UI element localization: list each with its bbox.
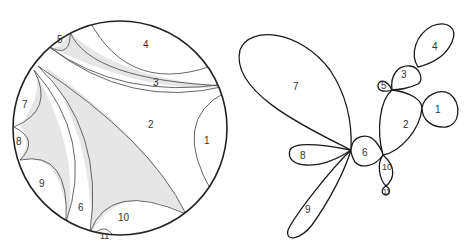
arc-region-1 [194, 92, 226, 192]
disk-label-11: 11 [100, 231, 109, 241]
lobe-7 [239, 35, 351, 150]
lobe-label-7: 7 [293, 81, 299, 92]
diagram-canvas: 1 2 3 4 5 6 7 8 9 10 11 1 2 3 4 5 6 7 8 [0, 0, 471, 248]
lobe-label-4: 4 [432, 41, 438, 52]
disk-label-6: 6 [78, 202, 84, 213]
lobe-label-8: 8 [300, 150, 306, 161]
lobe-label-3: 3 [401, 69, 407, 80]
lobe-label-10: 10 [382, 162, 392, 172]
lobe-label-11: 11 [383, 188, 390, 195]
disk-label-7: 7 [22, 99, 28, 110]
disk-label-5: 5 [57, 34, 63, 45]
disk-label-9: 9 [39, 178, 45, 189]
lobe-tree [239, 24, 458, 238]
lobe-label-1: 1 [435, 104, 441, 115]
disk-label-3: 3 [153, 77, 159, 88]
lobe-label-5: 5 [381, 80, 387, 91]
lobe-label-6: 6 [362, 147, 368, 158]
lobe-2 [380, 90, 422, 155]
disk-label-2: 2 [148, 119, 154, 130]
lobe-label-9: 9 [305, 204, 311, 215]
disk-label-4: 4 [143, 39, 149, 50]
disk-label-10: 10 [118, 212, 130, 223]
lobe-label-2: 2 [403, 119, 409, 130]
disk-label-8: 8 [16, 136, 22, 147]
disk-label-1: 1 [204, 135, 210, 146]
